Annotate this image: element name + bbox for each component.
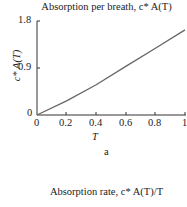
data-line (37, 30, 185, 115)
next-chart-title: Absorption rate, c* A(T)/T (0, 186, 187, 197)
subfigure-label: a (104, 146, 109, 157)
plot-area (0, 0, 187, 207)
x-axis-label: T (92, 131, 98, 142)
